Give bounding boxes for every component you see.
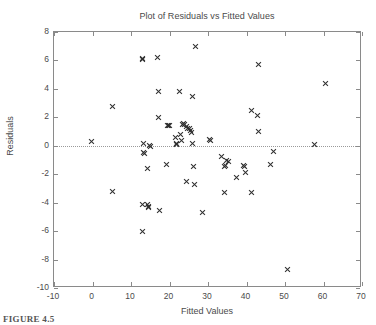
scatter-point (88, 138, 95, 145)
scatter-point (188, 129, 195, 136)
scatter-point (322, 80, 329, 87)
y-tick-mark (356, 288, 360, 289)
scatter-point (222, 162, 229, 169)
scatter-point (248, 107, 255, 114)
x-tick-label: 40 (241, 291, 250, 301)
y-tick-label: -6 (21, 225, 49, 235)
scatter-point (180, 120, 187, 127)
x-tick-label: 60 (318, 291, 327, 301)
scatter-point (163, 161, 170, 168)
x-tick-mark (247, 32, 248, 36)
x-tick-mark (93, 282, 94, 286)
scatter-point (139, 56, 146, 63)
y-tick-mark (54, 60, 58, 61)
scatter-point (192, 43, 199, 50)
y-tick-mark (54, 32, 58, 33)
scatter-point (255, 128, 262, 135)
scatter-point (109, 103, 116, 110)
scatter-point (206, 136, 213, 143)
x-tick-mark (324, 282, 325, 286)
scatter-point (233, 174, 240, 181)
y-tick-label: 6 (21, 54, 49, 64)
y-tick-mark (54, 288, 58, 289)
scatter-point (183, 178, 190, 185)
scatter-point (191, 181, 198, 188)
y-tick-label: 0 (21, 140, 49, 150)
y-tick-mark (356, 260, 360, 261)
x-tick-mark (54, 282, 55, 286)
y-tick-mark (356, 231, 360, 232)
y-tick-label: -8 (21, 254, 49, 264)
scatter-point (172, 134, 179, 141)
scatter-point (139, 201, 146, 208)
x-tick-mark (131, 282, 132, 286)
y-tick-mark (54, 203, 58, 204)
y-tick-label: 2 (21, 111, 49, 121)
x-tick-label: 70 (356, 291, 365, 301)
x-tick-mark (247, 282, 248, 286)
scatter-point (254, 112, 261, 119)
x-tick-mark (131, 32, 132, 36)
x-tick-mark (93, 32, 94, 36)
scatter-point (144, 201, 151, 208)
scatter-point (164, 122, 171, 129)
y-axis-label: Residuals (5, 106, 15, 166)
scatter-point (178, 137, 185, 144)
x-tick-mark (362, 32, 363, 36)
scatter-point (267, 161, 274, 168)
plot-area (53, 31, 361, 287)
x-tick-mark (285, 32, 286, 36)
y-tick-mark (54, 117, 58, 118)
page-title: Plot of Residuals vs Fitted Values (53, 11, 361, 21)
y-tick-mark (54, 89, 58, 90)
y-tick-mark (356, 203, 360, 204)
scatter-point (248, 189, 255, 196)
x-tick-mark (324, 32, 325, 36)
zero-reference-line (54, 146, 360, 147)
scatter-point (223, 157, 230, 164)
x-tick-label: 30 (202, 291, 211, 301)
y-tick-mark (54, 260, 58, 261)
x-tick-mark (170, 282, 171, 286)
scatter-point (241, 163, 248, 170)
scatter-point (189, 93, 196, 100)
figure-caption: FIGURE 4.5 (3, 314, 55, 325)
scatter-point (207, 137, 214, 144)
scatter-point (183, 123, 190, 130)
scatter-point (145, 204, 152, 211)
x-tick-label: 0 (89, 291, 94, 301)
scatter-point (242, 169, 249, 176)
scatter-point (184, 125, 191, 132)
y-tick-mark (356, 146, 360, 147)
scatter-point (155, 88, 162, 95)
scatter-point (166, 122, 173, 129)
scatter-point (179, 121, 186, 128)
scatter-point (141, 150, 148, 157)
x-tick-mark (208, 282, 209, 286)
scatter-point (186, 125, 193, 132)
scatter-point (139, 228, 146, 235)
scatter-point (181, 121, 188, 128)
scatter-point (225, 158, 232, 165)
y-tick-label: -10 (21, 282, 49, 292)
scatter-point (156, 207, 163, 214)
scatter-point (139, 55, 146, 62)
scatter-point (144, 165, 151, 172)
scatter-point (155, 114, 162, 121)
x-tick-mark (208, 32, 209, 36)
scatter-point (173, 141, 180, 148)
scatter-point (199, 209, 206, 216)
y-tick-mark (54, 146, 58, 147)
scatter-point (140, 149, 147, 156)
scatter-point (145, 203, 152, 210)
x-tick-mark (170, 32, 171, 36)
x-tick-label: -10 (47, 291, 59, 301)
x-axis-label: Fitted Values (53, 306, 361, 316)
y-tick-mark (356, 117, 360, 118)
y-tick-mark (356, 32, 360, 33)
scatter-point (270, 148, 277, 155)
scatter-point (187, 127, 194, 134)
y-tick-mark (356, 174, 360, 175)
x-tick-mark (362, 282, 363, 286)
y-tick-label: -2 (21, 168, 49, 178)
